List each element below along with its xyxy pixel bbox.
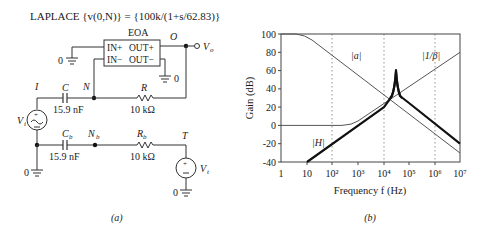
label-h: |H|: [312, 137, 325, 148]
pin-in-minus: IN−: [107, 55, 122, 65]
vt-sub: t: [207, 168, 210, 176]
svg-text:+: +: [183, 160, 187, 168]
node-nb-sub: b: [96, 133, 100, 141]
node-nb-dot: [93, 143, 97, 147]
curve-h-peak: [390, 72, 402, 98]
vo-terminal: [195, 44, 200, 49]
node-nb-label: N: [87, 128, 96, 139]
svg-text:10⁴: 10⁴: [377, 168, 391, 179]
svg-text:1: 1: [279, 168, 284, 179]
svg-text:40: 40: [266, 83, 276, 94]
label-a: |a|: [351, 50, 362, 61]
node-o-label: O: [170, 31, 177, 42]
pin-out-minus: OUT−: [129, 55, 154, 65]
node-n-label: N: [82, 81, 91, 92]
figure: LAPLACE {v(0,N)} = {100k/(1+s/62.83)} EO…: [0, 0, 478, 232]
rb-sub: b: [143, 133, 147, 141]
y-axis-label: Gain (dB): [244, 76, 256, 119]
svg-text:+: +: [34, 111, 38, 119]
curve-h: [307, 70, 460, 162]
svg-text:100: 100: [261, 29, 276, 40]
curve-inv-beta: [281, 52, 460, 125]
pin-out-plus: OUT+: [129, 43, 154, 53]
vo-sub: o: [210, 46, 214, 54]
cb-value: 15.9 nF: [49, 151, 80, 162]
ground-label: 0: [173, 187, 178, 198]
node-t-label: T: [182, 130, 189, 141]
svg-text:10³: 10³: [352, 168, 365, 179]
pin-in-plus: IN+: [107, 43, 122, 53]
wire-out-minus: [160, 59, 165, 76]
ground-icon: [159, 76, 171, 82]
svg-text:10⁶: 10⁶: [428, 168, 442, 179]
resistor-rb: [137, 142, 153, 148]
node-i-label: I: [34, 81, 39, 92]
svg-text:10⁷: 10⁷: [453, 168, 467, 179]
wire-in-plus: [72, 47, 104, 58]
cb-label: C: [62, 128, 69, 139]
caption-a: (a): [111, 212, 123, 224]
label-inv-beta: |1/β|: [422, 50, 440, 61]
circuit-diagram: LAPLACE {v(0,N)} = {100k/(1+s/62.83)} EO…: [17, 10, 220, 224]
ac-source-icon: +: [27, 110, 47, 130]
r-value: 10 kΩ: [130, 104, 155, 115]
svg-text:-20: -20: [263, 138, 276, 149]
caption-b: (b): [364, 212, 376, 224]
eoa-label: EOA: [128, 27, 149, 38]
svg-text:-40: -40: [263, 157, 276, 168]
dc-source-icon: +: [176, 158, 196, 178]
vi-sub: i: [24, 120, 26, 128]
bode-plot: 100 80 60 40 20 0 -20 -40 1 10 10² 10³ 1…: [244, 29, 467, 224]
laplace-expression: LAPLACE {v(0,N)} = {100k/(1+s/62.83)}: [30, 10, 220, 23]
x-tick-labels: 1 10 10² 10³ 10⁴ 10⁵ 10⁶ 10⁷: [279, 168, 468, 179]
r-label: R: [140, 82, 147, 93]
ground-icon: [66, 58, 78, 64]
resistor-r: [137, 95, 153, 101]
svg-text:80: 80: [266, 47, 276, 58]
svg-text:10²: 10²: [326, 168, 339, 179]
ground-label: 0: [174, 73, 179, 84]
svg-text:60: 60: [266, 65, 276, 76]
svg-text:0: 0: [271, 120, 276, 131]
rb-value: 10 kΩ: [130, 151, 155, 162]
wire-rb-t: [153, 145, 186, 158]
svg-text:20: 20: [266, 102, 276, 113]
wire-in-minus: [94, 59, 104, 98]
ground-icon: [31, 170, 43, 176]
ground-icon: [180, 190, 192, 196]
ground-label: 0: [58, 55, 63, 66]
x-axis-label: Frequency f (Hz): [334, 185, 407, 197]
c-label: C: [62, 82, 69, 93]
y-tick-labels: 100 80 60 40 20 0 -20 -40: [261, 29, 276, 168]
ground-label: 0: [24, 167, 29, 178]
svg-text:10: 10: [302, 168, 312, 179]
svg-text:10⁵: 10⁵: [402, 168, 416, 179]
c-value: 15.9 nF: [53, 104, 84, 115]
cb-sub: b: [69, 133, 73, 141]
